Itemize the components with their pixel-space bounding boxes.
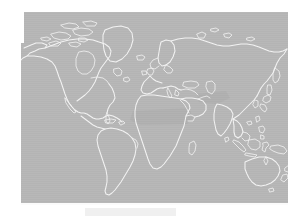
region-russia-siberia (171, 28, 287, 96)
region-australia (245, 157, 280, 192)
region-east-asia (233, 95, 271, 125)
region-india (214, 104, 233, 142)
map-plate-underline (21, 203, 288, 205)
world-coastlines (21, 12, 288, 203)
region-arctic-archipelago (41, 21, 97, 47)
world-map-figure (21, 12, 288, 203)
region-indonesia (233, 126, 287, 157)
region-europe (141, 40, 215, 98)
map-frame-notch (21, 12, 24, 43)
page-root (0, 0, 303, 218)
region-new-zealand (281, 165, 288, 182)
region-africa (135, 95, 196, 169)
figure-caption-bar (85, 208, 176, 216)
region-north-america (21, 39, 130, 124)
region-south-america (81, 116, 138, 195)
